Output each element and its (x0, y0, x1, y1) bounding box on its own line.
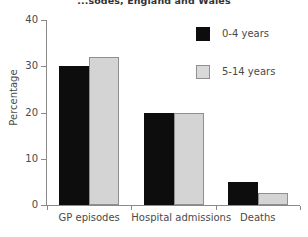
chart-legend: 0-4 years5-14 years (196, 27, 308, 103)
bar-gp-episodes-5-14-years (89, 57, 119, 205)
y-tick-mark (41, 66, 46, 67)
y-tick-label: 20 (0, 108, 38, 118)
y-tick-label: 10 (0, 154, 38, 164)
y-tick-mark (41, 113, 46, 114)
y-tick-label: 0 (0, 200, 38, 210)
x-tick-mark (47, 206, 48, 210)
legend-item-5-14-years[interactable]: 5-14 years (196, 65, 308, 79)
y-tick-mark (41, 20, 46, 21)
x-axis-line (46, 205, 300, 206)
legend-item-0-4-years[interactable]: 0-4 years (196, 27, 308, 41)
x-tick-label: GP episodes (47, 212, 131, 224)
legend-swatch-icon (196, 65, 210, 79)
bar-deaths-5-14-years (258, 193, 288, 205)
bar-gp-episodes-0-4-years (59, 66, 89, 205)
y-tick-mark (41, 159, 46, 160)
x-tick-label: Deaths (216, 212, 300, 224)
y-tick-mark (41, 205, 46, 206)
x-tick-mark (216, 206, 217, 210)
bar-hospital-admissions-5-14-years (174, 113, 204, 206)
bar-chart-figure: ...sodes, England and Wales Percentage 0… (0, 0, 308, 237)
legend-label: 0-4 years (222, 28, 269, 40)
bar-deaths-0-4-years (228, 182, 258, 205)
x-tick-mark (300, 206, 301, 210)
legend-label: 5-14 years (222, 66, 275, 78)
y-tick-label: 40 (0, 15, 38, 25)
bar-hospital-admissions-0-4-years (144, 113, 174, 206)
chart-title: ...sodes, England and Wales (0, 0, 308, 6)
x-tick-mark (131, 206, 132, 210)
y-tick-label: 30 (0, 61, 38, 71)
legend-swatch-icon (196, 27, 210, 41)
x-tick-label: Hospital admissions (131, 212, 215, 224)
